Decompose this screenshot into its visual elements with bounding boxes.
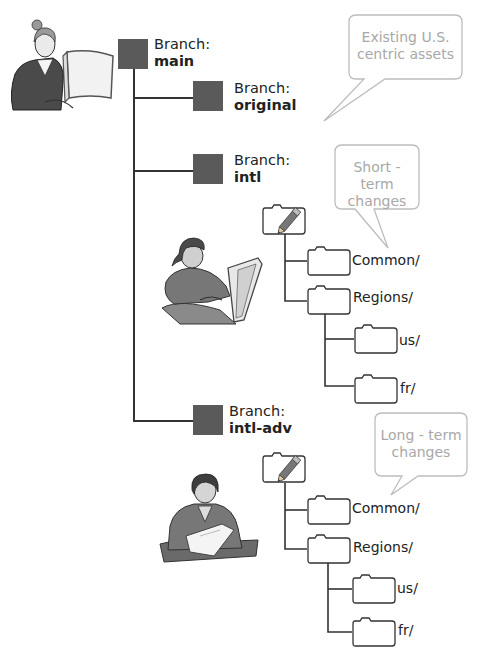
folder-icon-fr-2 (352, 616, 396, 647)
folder-icon-us-2 (352, 573, 396, 604)
person-with-papers-icon (160, 470, 260, 565)
folder-edit-icon-2 (262, 451, 308, 483)
folder-label-regions-2: Regions/ (353, 539, 413, 555)
folder-icon-regions-2 (307, 533, 351, 564)
folder-label-us-2: us/ (397, 580, 418, 596)
folder-label-fr-2: fr/ (398, 622, 413, 638)
person-at-desk-icon (160, 230, 270, 325)
folder-icon-common-2 (307, 494, 351, 525)
folder-label-common-2: Common/ (352, 500, 420, 516)
person-at-computer-icon (5, 12, 115, 112)
